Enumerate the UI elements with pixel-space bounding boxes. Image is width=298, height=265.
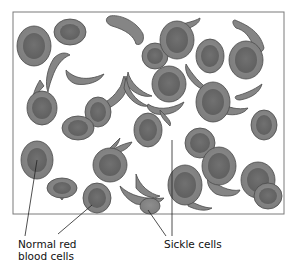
blood-cell-diagram xyxy=(0,0,298,265)
label-line-1: Normal red xyxy=(18,238,77,250)
label-sickle-cells: Sickle cells xyxy=(164,238,222,250)
label-line-2: blood cells xyxy=(18,250,77,262)
label-normal-red-blood-cells: Normal red blood cells xyxy=(18,238,77,262)
